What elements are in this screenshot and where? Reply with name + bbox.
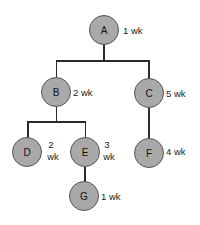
edge-a-stem <box>103 45 105 61</box>
task-tree-diagram: A 1 wk B 2 wk C 5 wk D 2 wk E 3 wk F 4 w… <box>0 0 200 225</box>
edge-a-bar <box>56 60 149 62</box>
edge-b-d <box>27 121 29 138</box>
edge-a-b <box>56 60 58 78</box>
node-b-label: B <box>53 87 60 98</box>
edge-b-e <box>85 121 87 138</box>
node-a: A <box>89 15 119 45</box>
node-b-duration: 2 wk <box>73 87 93 98</box>
node-g: G <box>69 181 99 211</box>
node-e-duration-num: 3 <box>98 139 116 150</box>
edge-e-g <box>84 167 86 182</box>
edge-b-bar <box>27 121 85 123</box>
node-b: B <box>41 77 71 107</box>
node-d-duration-num: 2 <box>42 139 60 150</box>
node-g-duration: 1 wk <box>101 191 121 202</box>
node-c: C <box>134 78 164 108</box>
node-e-label: E <box>82 147 89 158</box>
node-g-label: G <box>80 191 88 202</box>
node-f: F <box>134 138 164 168</box>
edge-c-f <box>148 108 150 139</box>
edge-a-c <box>148 60 150 79</box>
node-c-duration: 5 wk <box>166 88 186 99</box>
node-d-label: D <box>23 147 30 158</box>
node-a-label: A <box>101 25 108 36</box>
node-c-label: C <box>145 88 152 99</box>
node-d-duration-unit: wk <box>44 151 62 162</box>
node-a-duration: 1 wk <box>123 25 143 36</box>
node-f-duration: 4 wk <box>166 146 186 157</box>
node-f-label: F <box>146 148 152 159</box>
node-d: D <box>12 137 42 167</box>
edge-b-stem <box>56 107 58 122</box>
node-e-duration-unit: wk <box>100 151 118 162</box>
node-e: E <box>70 137 100 167</box>
